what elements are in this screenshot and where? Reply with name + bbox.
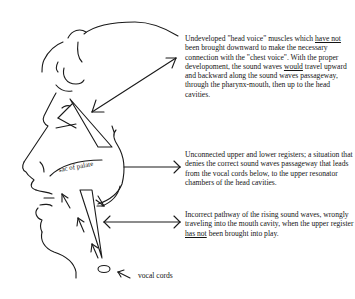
head-voice-double-arrow [92,58,176,112]
annotation-text: been brought into play. [207,229,279,238]
vocal-cords-label: vocal cords [138,271,173,280]
skull-outline [84,22,178,36]
neck-outline [98,130,124,204]
vocal-cords-shape [98,266,110,273]
annotation-emphasis: has not [185,229,207,238]
face-outline [24,93,56,162]
annotation-text: Unconnected upper and lower registers; a… [185,150,353,187]
head-voice-annotation: Undeveloped "head voice" muscles which h… [185,34,355,99]
annotation-text: Undeveloped "head voice" muscles which [185,34,315,43]
annotation-emphasis: would [284,62,303,71]
incorrect-pathway-annotation: Incorrect pathway of the rising sound wa… [185,210,355,238]
unconnected-registers-annotation: Unconnected upper and lower registers; a… [185,150,355,187]
annotation-emphasis: have not [315,34,341,43]
upper-register-wedge [70,99,112,147]
annotation-text: Incorrect pathway of the rising sound wa… [185,210,353,228]
